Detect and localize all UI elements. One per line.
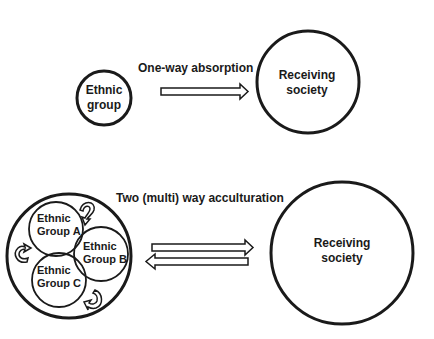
- curved-arrow-icon: [15, 244, 31, 262]
- curved-arrow-icon: [84, 290, 102, 310]
- one-way-arrow-icon: [161, 84, 248, 99]
- two-way-acculturation-label: Two (multi) way acculturation: [116, 191, 284, 205]
- receiving-society-label-bottom: Receiving society: [314, 236, 371, 266]
- right-arrow-icon: [152, 240, 253, 255]
- one-way-absorption-label: One-way absorption: [138, 61, 253, 75]
- left-arrow-icon: [146, 254, 248, 269]
- receiving-society-line1: Receiving: [279, 68, 336, 83]
- receiving-society-bottom-line2: society: [314, 251, 371, 266]
- group-c-line1: Ethnic: [37, 264, 81, 277]
- group-b-line1: Ethnic: [83, 240, 127, 253]
- ethnic-group-label: Ethnic group: [86, 83, 123, 113]
- receiving-society-label-top: Receiving society: [279, 68, 336, 98]
- receiving-society-line2: society: [279, 83, 336, 98]
- group-a-line1: Ethnic: [37, 212, 81, 225]
- ethnic-group-label-line2: group: [86, 98, 123, 113]
- ethnic-group-a-label: Ethnic Group A: [37, 212, 81, 238]
- group-c-line2: Group C: [37, 277, 81, 290]
- ethnic-group-label-line1: Ethnic: [86, 83, 123, 98]
- group-a-line2: Group A: [37, 225, 81, 238]
- ethnic-group-b-label: Ethnic Group B: [83, 240, 127, 266]
- receiving-society-bottom-line1: Receiving: [314, 236, 371, 251]
- group-b-line2: Group B: [83, 253, 127, 266]
- ethnic-group-c-label: Ethnic Group C: [37, 264, 81, 290]
